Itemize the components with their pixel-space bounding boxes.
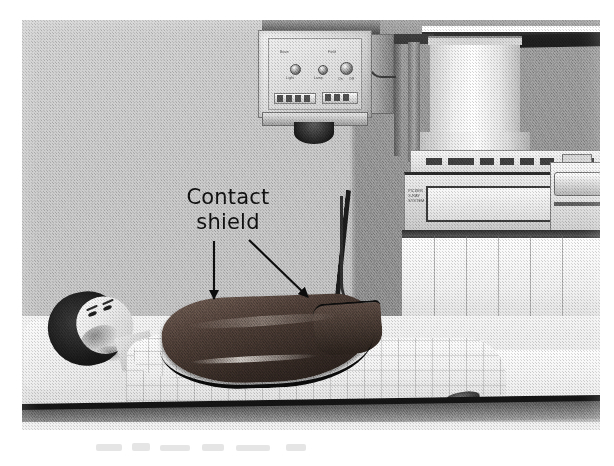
contact-shield-label-line1: Contact (186, 185, 269, 209)
figure-root: Beam Field Light Lamp On Off (0, 0, 614, 466)
collimator-wire (368, 50, 396, 78)
console-button (480, 158, 494, 165)
collimator-label-off: Off (349, 77, 354, 81)
console-handle (562, 154, 592, 163)
collimator-cone (294, 122, 334, 144)
console-brand-text: PICKER X-RAY SYSTEM (408, 188, 424, 203)
collimator-label-light: Light (286, 76, 294, 80)
console-roller (554, 172, 600, 196)
contact-shield-label: Contact shield (158, 185, 298, 235)
collimator-label-lamp: Lamp (314, 76, 323, 80)
support-strut-front (408, 42, 420, 162)
console-button (500, 158, 514, 165)
ceiling-rail-secondary (520, 33, 600, 48)
print-smudge (96, 444, 122, 451)
contact-shield-label-line2: shield (158, 210, 298, 235)
console-button (520, 158, 534, 165)
print-smudge (236, 445, 270, 451)
console-slot (554, 202, 600, 206)
console-brand-line3: SYSTEM (408, 198, 424, 203)
console-button (448, 158, 474, 165)
print-smudge (202, 444, 224, 451)
print-smudge (286, 444, 306, 451)
print-smudge (160, 445, 190, 451)
collimator-switch-bank-right (322, 92, 358, 104)
console-button (426, 158, 442, 165)
tube-column-cap (428, 36, 522, 45)
console-display (426, 186, 570, 222)
collimator-knob (340, 62, 353, 75)
collimator-knob (318, 65, 328, 75)
collimator-switch-bank-left (274, 93, 316, 104)
collimator-label-on: On (338, 77, 343, 81)
collimator-label-field: Field (328, 50, 336, 54)
print-smudge (132, 443, 150, 451)
collimator-label-beam: Beam (280, 50, 289, 54)
collimator-knob (290, 64, 301, 75)
floor (22, 422, 600, 430)
photograph-plate: Beam Field Light Lamp On Off (22, 20, 600, 430)
